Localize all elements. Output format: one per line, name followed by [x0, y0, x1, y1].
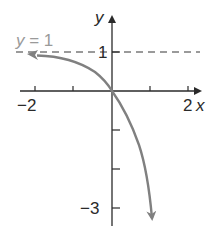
x-axis-label: x: [195, 96, 205, 115]
y-ticks: [112, 52, 120, 208]
graph: y x y = 1 1 −3 −2 2: [0, 0, 208, 232]
tick-label-y-1: 1: [98, 43, 107, 62]
tick-label-y-neg3: −3: [80, 199, 99, 218]
tick-label-x-neg2: −2: [17, 96, 36, 115]
asymptote-label: y = 1: [15, 31, 53, 50]
function-curve: [37, 56, 152, 219]
y-axis-label: y: [94, 8, 105, 27]
tick-label-x-2: 2: [183, 96, 192, 115]
